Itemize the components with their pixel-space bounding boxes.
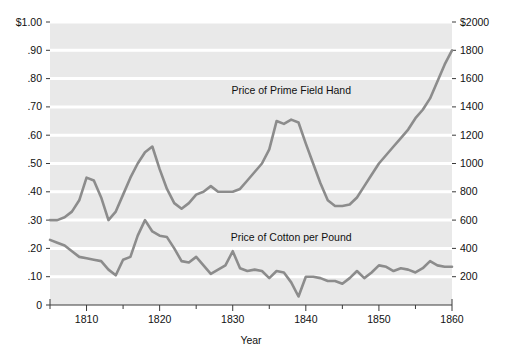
x-axis-title: Year <box>240 334 262 346</box>
x-axis-tick-label: 1810 <box>75 313 99 325</box>
annotation-cotton-per-pound: Price of Cotton per Pound <box>231 231 352 243</box>
left-axis-tick-label: .30 <box>27 214 42 226</box>
left-axis-tick-label: .60 <box>27 129 42 141</box>
right-axis-tick-label: 800 <box>460 185 478 197</box>
x-axis-tick-label: 1840 <box>294 313 318 325</box>
right-axis-tick-label: 1000 <box>460 157 484 169</box>
x-axis-tick-label: 1830 <box>221 313 245 325</box>
annotation-prime-field-hand: Price of Prime Field Hand <box>231 84 351 96</box>
right-axis-tick-label: 600 <box>460 214 478 226</box>
x-axis-tick-label: 1860 <box>440 313 464 325</box>
left-axis-tick-label: .90 <box>27 44 42 56</box>
right-axis-tick-label: $2000 <box>460 16 489 28</box>
x-axis-tick-label: 1850 <box>367 313 391 325</box>
left-axis-tick-label: .70 <box>27 100 42 112</box>
right-axis-tick-label: 1600 <box>460 72 484 84</box>
left-axis-tick-label: 0 <box>36 299 42 311</box>
right-axis-tick-label: 400 <box>460 242 478 254</box>
left-axis-tick-label: .40 <box>27 185 42 197</box>
right-axis-tick-label: 200 <box>460 270 478 282</box>
left-axis-tick-label: .50 <box>27 157 42 169</box>
left-axis-tick-label: .20 <box>27 242 42 254</box>
left-axis-tick-label: .80 <box>27 72 42 84</box>
right-axis-tick-label: 1400 <box>460 100 484 112</box>
left-axis-tick-label: $1.00 <box>16 16 42 28</box>
right-axis-tick-label: 1200 <box>460 129 484 141</box>
x-axis-tick-label: 1820 <box>148 313 172 325</box>
right-axis-tick-label: 1800 <box>460 44 484 56</box>
price-line-chart: 0.10.20.30.40.50.60.70.80.90$1.00 200400… <box>0 0 510 350</box>
chart-container: 0.10.20.30.40.50.60.70.80.90$1.00 200400… <box>0 0 510 350</box>
left-axis-tick-label: .10 <box>27 270 42 282</box>
